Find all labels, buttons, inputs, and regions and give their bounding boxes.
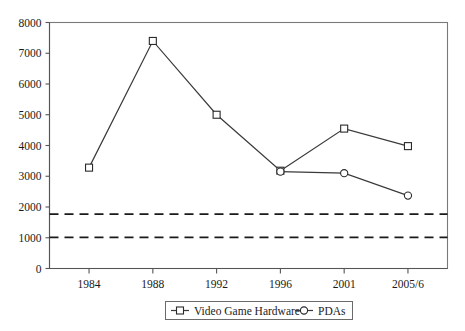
x-tick-label: 2005/6 <box>392 278 424 290</box>
data-point-marker-square <box>149 37 156 44</box>
y-tick-label: 3000 <box>19 170 42 182</box>
threshold-lines <box>50 214 448 237</box>
y-tick-label: 1000 <box>19 232 42 244</box>
series-group <box>86 37 412 199</box>
legend-marker-square-icon <box>177 307 184 314</box>
data-point-marker-circle <box>404 192 411 199</box>
data-point-marker-circle <box>341 170 348 177</box>
series-line-0 <box>89 41 408 171</box>
data-point-marker-square <box>341 125 348 132</box>
x-tick-label: 1996 <box>269 278 292 290</box>
y-tick-label: 2000 <box>19 201 42 213</box>
plot-area-border <box>50 23 448 269</box>
chart-legend: Video Game Hardware PDAs <box>166 302 353 320</box>
y-tick-label: 7000 <box>19 47 42 59</box>
y-tick-label: 6000 <box>19 78 42 90</box>
data-point-marker-square <box>213 111 220 118</box>
line-chart: 010002000300040005000600070008000 198419… <box>0 0 465 331</box>
series-video-game-hardware <box>86 37 412 174</box>
legend-label-1: PDAs <box>318 305 346 317</box>
data-point-marker-square <box>86 164 93 171</box>
legend-marker-circle-icon <box>300 307 307 314</box>
x-tick-label: 2001 <box>333 278 356 290</box>
data-point-marker-square <box>404 143 411 150</box>
x-tick-label: 1992 <box>205 278 228 290</box>
data-point-marker-circle <box>277 168 284 175</box>
y-axis-ticks: 010002000300040005000600070008000 <box>19 17 50 275</box>
chart-canvas: 010002000300040005000600070008000 198419… <box>0 0 465 331</box>
x-tick-label: 1984 <box>78 278 101 290</box>
y-tick-label: 0 <box>36 263 42 275</box>
legend-label-0: Video Game Hardware <box>194 305 300 317</box>
x-axis-ticks: 198419881992199620012005/6 <box>78 269 425 290</box>
y-tick-label: 8000 <box>19 17 42 29</box>
series-pdas <box>277 168 412 199</box>
x-tick-label: 1988 <box>141 278 164 290</box>
y-tick-label: 5000 <box>19 109 42 121</box>
y-tick-label: 4000 <box>19 140 42 152</box>
